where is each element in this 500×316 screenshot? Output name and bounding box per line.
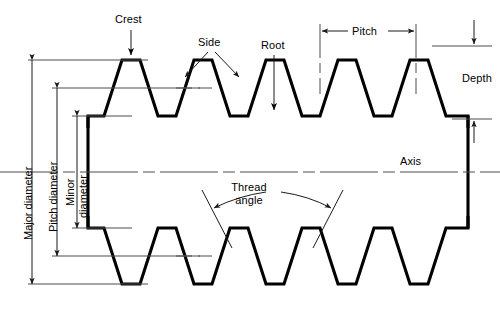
label-root: Root: [261, 39, 285, 51]
label-thread-angle-line1: Thread: [231, 181, 266, 193]
side-leader-right: [215, 52, 239, 77]
thread-angle-flank-right: [313, 190, 343, 248]
label-crest: Crest: [115, 13, 142, 25]
top-thread-profile: [88, 60, 468, 128]
bottom-thread-profile: [88, 216, 468, 284]
label-minor-diameter-line1: Minor: [64, 178, 76, 206]
diagram-canvas: [0, 0, 500, 316]
label-axis: Axis: [400, 155, 421, 167]
thread-terminology-diagram: Crest Side Root Pitch Depth Axis Thread …: [0, 0, 500, 316]
label-depth: Depth: [462, 72, 492, 84]
label-thread-angle: Thread angle: [219, 181, 279, 207]
label-pitch: Pitch: [352, 25, 377, 37]
label-major-diameter: Major diameter: [22, 167, 34, 240]
thread-angle-arc-right: [281, 192, 331, 208]
label-pitch-diameter: Pitch diameter: [47, 162, 59, 232]
side-leader-left: [185, 52, 208, 77]
label-thread-angle-line2: angle: [235, 194, 262, 206]
label-side: Side: [198, 36, 220, 48]
label-minor-diameter-line2: diameter: [77, 175, 89, 218]
